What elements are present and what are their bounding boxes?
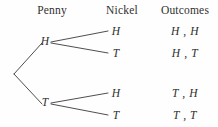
probability-tree-diagram: Penny Nickel Outcomes H T H T H T H , H … [0, 0, 218, 127]
edge-penny-t-to-nickel-h [51, 93, 108, 103]
column-header-penny: Penny [31, 4, 73, 16]
edge-root-to-penny-t [14, 74, 42, 104]
node-penny-tails: T [39, 96, 51, 108]
outcome-hh: H , H [162, 25, 208, 37]
node-penny-heads: H [39, 35, 51, 47]
outcome-th: T , H [162, 87, 208, 99]
node-nickel-heads-upper: H [110, 25, 122, 37]
tree-edges [0, 0, 218, 127]
node-nickel-tails-upper: T [110, 47, 122, 59]
outcome-ht: H , T [162, 47, 208, 59]
edge-penny-h-to-nickel-h [51, 31, 108, 42]
node-nickel-tails-lower: T [110, 109, 122, 121]
edge-penny-t-to-nickel-t [51, 104, 108, 115]
edge-root-to-penny-h [14, 43, 42, 74]
outcome-tt: T , T [162, 109, 208, 121]
edge-penny-h-to-nickel-t [51, 43, 108, 53]
column-header-outcomes: Outcomes [156, 4, 214, 16]
node-nickel-heads-lower: H [110, 87, 122, 99]
column-header-nickel: Nickel [103, 4, 141, 16]
